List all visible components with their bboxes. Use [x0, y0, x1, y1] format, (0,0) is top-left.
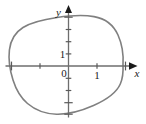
closed-curve: [9, 16, 123, 115]
x-tick-label-one: 1: [94, 69, 100, 81]
origin-label: 0: [61, 67, 67, 79]
y-axis-arrow-icon: [65, 5, 72, 13]
y-tick-label-one: 1: [60, 48, 66, 60]
y-axis-label: y: [55, 6, 61, 18]
figure-container: y x 0 1 1: [0, 0, 146, 124]
coordinate-plane-figure: y x 0 1 1: [0, 0, 146, 124]
x-axis-label: x: [134, 67, 140, 79]
